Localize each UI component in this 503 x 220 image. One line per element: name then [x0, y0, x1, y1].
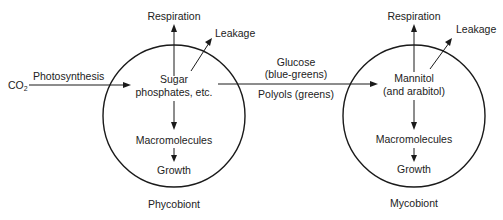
mycobiont-group: Respiration Leakage Mannitol (and arabit… [343, 10, 496, 209]
arrowhead-icon [411, 122, 417, 130]
phycobiont-leakage-label: Leakage [215, 27, 255, 39]
phycobiont-growth-label: Growth [157, 164, 191, 176]
mycobiont-pool-line2: (and arabitol) [383, 85, 445, 97]
arrowhead-icon [411, 155, 417, 162]
co2-label: CO2 [8, 79, 28, 92]
phycobiont-name: Phycobiont [148, 198, 200, 210]
carbon-flow-diagram: Respiration Leakage Sugar phosphates, et… [0, 0, 503, 220]
mycobiont-name: Mycobiont [390, 197, 438, 209]
mycobiont-growth-label: Growth [397, 163, 431, 175]
arrowhead-icon [171, 155, 177, 162]
transfer-label-glucose: Glucose [277, 56, 316, 68]
phycobiont-pool-line1: Sugar [160, 73, 189, 85]
arrowhead-icon [123, 82, 131, 88]
arrowhead-icon [411, 24, 417, 32]
arrowhead-icon [171, 24, 177, 32]
phycobiont-pool-line2: phosphates, etc. [135, 86, 212, 98]
arrowhead-icon [370, 81, 378, 87]
mycobiont-macromolecules-label: Macromolecules [376, 133, 452, 145]
photosynthesis-label: Photosynthesis [33, 70, 104, 82]
phycobiont-group: Respiration Leakage Sugar phosphates, et… [103, 10, 255, 210]
phycobiont-respiration-label: Respiration [147, 10, 200, 22]
transfer-label-polyols: Polyols (greens) [258, 88, 334, 100]
arrowhead-icon [205, 38, 212, 46]
transfer-label-blue-greens: (blue-greens) [265, 68, 327, 80]
mycobiont-respiration-label: Respiration [387, 10, 440, 22]
arrowhead-icon [445, 38, 452, 46]
phycobiont-macromolecules-label: Macromolecules [136, 134, 212, 146]
mycobiont-leakage-label: Leakage [456, 23, 496, 35]
arrowhead-icon [171, 122, 177, 130]
mycobiont-pool-line1: Mannitol [394, 72, 434, 84]
